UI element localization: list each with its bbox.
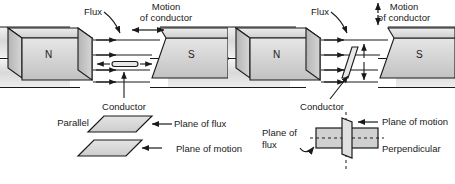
south-pole-label-right: S bbox=[416, 49, 423, 60]
motion-label-right-line1: Motion bbox=[390, 1, 419, 12]
motion-label-left-line1: Motion bbox=[152, 1, 181, 12]
conductor-label-left: Conductor bbox=[102, 101, 146, 112]
perp-plane-of-flux-label-line2: flux bbox=[262, 139, 277, 150]
plane-of-motion-label: Plane of motion bbox=[176, 143, 242, 154]
conductor-left bbox=[112, 62, 138, 67]
motion-label-left-line2: of conductor bbox=[140, 12, 192, 23]
conductor-label-right: Conductor bbox=[300, 101, 344, 112]
north-pole-block-right: N bbox=[236, 28, 320, 80]
motion-label-right-line2: of conductor bbox=[378, 12, 430, 23]
south-pole-label: S bbox=[188, 49, 195, 60]
north-pole-block: N bbox=[8, 28, 92, 80]
flux-label-left: Flux bbox=[84, 6, 102, 17]
north-pole-label: N bbox=[45, 49, 52, 60]
flux-label-right: Flux bbox=[311, 6, 329, 17]
parallel-label: Parallel bbox=[57, 117, 89, 128]
plane-of-flux-label: Plane of flux bbox=[174, 118, 227, 129]
perpendicular-label: Perpendicular bbox=[382, 143, 441, 154]
perp-plane-of-flux-label-line1: Plane of bbox=[262, 127, 297, 138]
north-pole-label-right: N bbox=[273, 49, 280, 60]
diagram-canvas: N S Conductor bbox=[0, 0, 455, 184]
perp-plane-of-motion-shape bbox=[342, 118, 352, 158]
physics-diagram-svg: N S Conductor bbox=[0, 0, 455, 184]
perp-plane-of-motion-label: Plane of motion bbox=[382, 116, 448, 127]
